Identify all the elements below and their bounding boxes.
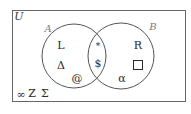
element-star: * [96, 42, 101, 51]
set-b-label: B [149, 22, 156, 32]
set-a-label: A [44, 24, 51, 34]
element-dollar: $ [95, 58, 102, 69]
element-sigma: Σ [41, 88, 49, 99]
universe-label: U [14, 11, 23, 22]
element-z: Z [28, 88, 36, 99]
element-delta: Δ [57, 60, 65, 71]
element-at: @ [72, 73, 83, 84]
element-square [133, 60, 143, 70]
element-l: L [57, 40, 64, 51]
element-r: R [134, 40, 142, 51]
element-infinity: ∞ [16, 89, 25, 100]
element-alpha: α [118, 73, 125, 84]
